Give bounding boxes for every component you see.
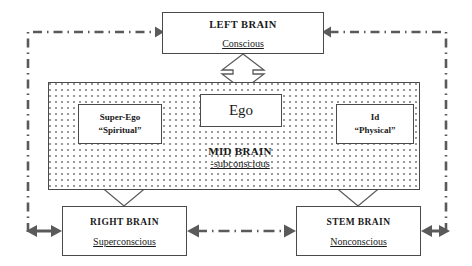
ego-label: Ego (229, 102, 253, 119)
node-stem-brain[interactable]: STEM BRAIN Nonconscious (296, 206, 421, 256)
id-line1: Id (371, 111, 380, 124)
right-stem-connector (187, 225, 296, 238)
right-brain-title: RIGHT BRAIN (90, 217, 159, 227)
super-ego-line1: Super-Ego (100, 111, 141, 124)
super-ego-line2: “Spiritual” (98, 124, 141, 137)
stem-brain-subtitle: Nonconscious (330, 236, 387, 247)
node-left-brain[interactable]: LEFT BRAIN Conscious (162, 12, 324, 54)
stem-brain-title: STEM BRAIN (327, 217, 391, 227)
node-id[interactable]: Id “Physical” (336, 104, 414, 144)
diagram-canvas: MID BRAIN -subconscious LEFT BRAIN Consc… (0, 0, 472, 266)
node-ego[interactable]: Ego (200, 94, 282, 127)
right-brain-subtitle: Superconscious (93, 236, 156, 247)
id-line2: “Physical” (354, 124, 395, 137)
outer-left-double-arrow (26, 225, 62, 237)
left-brain-title: LEFT BRAIN (209, 19, 277, 30)
node-super-ego[interactable]: Super-Ego “Spiritual” (78, 104, 162, 144)
left-brain-subtitle: Conscious (222, 38, 264, 49)
node-right-brain[interactable]: RIGHT BRAIN Superconscious (62, 206, 187, 256)
